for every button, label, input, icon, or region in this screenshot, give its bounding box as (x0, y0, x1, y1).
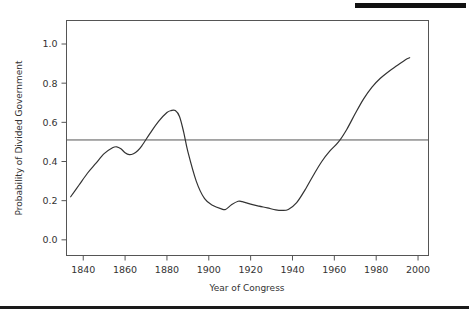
x-tick-label: 1880 (155, 264, 179, 275)
x-tick-label: 1960 (322, 264, 346, 275)
x-tick-label: 1840 (71, 264, 95, 275)
x-tick-label: 1940 (280, 264, 304, 275)
y-axis-ticks: 0.00.20.40.60.81.0 (42, 38, 66, 245)
y-axis-title: Probability of Divided Government (14, 60, 24, 216)
x-tick-label: 1860 (113, 264, 137, 275)
y-tick-label: 0.8 (42, 78, 57, 89)
x-tick-label: 1980 (364, 264, 388, 275)
x-tick-label: 2000 (406, 264, 430, 275)
plot-frame (67, 21, 429, 256)
x-axis-ticks: 184018601880190019201940196019802000 (71, 256, 430, 275)
bottom-rule-divider (0, 306, 469, 309)
x-tick-label: 1920 (239, 264, 263, 275)
y-tick-label: 0.6 (42, 117, 57, 128)
divided-government-line-chart: 0.00.20.40.60.81.0 184018601880190019201… (0, 0, 469, 300)
y-tick-label: 0.0 (42, 234, 57, 245)
x-tick-label: 1900 (197, 264, 221, 275)
y-tick-label: 1.0 (42, 38, 57, 49)
chart-figure: 0.00.20.40.60.81.0 184018601880190019201… (0, 0, 469, 300)
figure-page: 0.00.20.40.60.81.0 184018601880190019201… (0, 0, 469, 317)
x-axis-title: Year of Congress (208, 283, 284, 293)
y-tick-label: 0.2 (42, 195, 57, 206)
y-tick-label: 0.4 (42, 156, 57, 167)
